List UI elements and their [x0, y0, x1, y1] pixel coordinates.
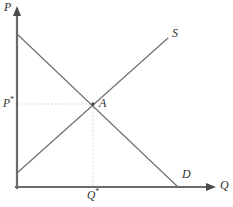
- equilibrium-price-base: P: [3, 97, 10, 109]
- equilibrium-quantity-label: Q*: [87, 188, 99, 201]
- equilibrium-price-label: P*: [3, 96, 14, 109]
- supply-demand-diagram: P Q S D A P* Q*: [0, 0, 233, 207]
- equilibrium-price-star: *: [10, 95, 14, 104]
- equilibrium-quantity-star: *: [95, 187, 99, 196]
- equilibrium-point-label: A: [99, 97, 106, 109]
- demand-curve-label: D: [182, 168, 191, 180]
- quantity-axis-arrowhead: [206, 183, 216, 191]
- price-axis-label: P: [4, 1, 11, 13]
- quantity-axis-label: Q: [220, 179, 229, 191]
- diagram-canvas: [0, 0, 233, 207]
- price-axis-arrowhead: [13, 6, 21, 16]
- equilibrium-point-marker: [91, 102, 94, 105]
- demand-curve: [17, 34, 178, 187]
- supply-curve-label: S: [172, 27, 178, 39]
